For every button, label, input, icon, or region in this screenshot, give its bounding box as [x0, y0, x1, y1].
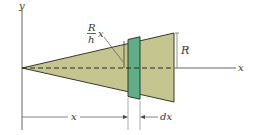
- x-axis-label: x: [238, 62, 244, 73]
- arrowhead-icon: [140, 115, 145, 119]
- radius-label: R: [180, 44, 189, 57]
- arrowhead-icon: [123, 115, 128, 119]
- y-axis-label: y: [18, 0, 25, 11]
- fraction-denominator: h: [88, 34, 94, 45]
- cone-diagram: y x R R h x x dx: [0, 0, 258, 135]
- dim-x-label: x: [71, 111, 77, 122]
- fraction-numerator: R: [87, 22, 96, 33]
- dim-dx-label: dx: [160, 111, 172, 122]
- fraction-variable: x: [98, 28, 104, 39]
